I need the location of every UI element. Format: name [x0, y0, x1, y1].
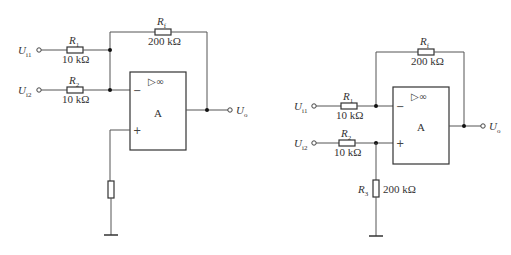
- left-output-label: Uo: [236, 104, 248, 119]
- right-ui1-terminal: [312, 104, 316, 108]
- left-opamp-minus: −: [133, 85, 141, 96]
- left-ui2-label: Ui2: [18, 84, 32, 99]
- left-rf-name: Rf: [156, 15, 167, 30]
- left-ui1-terminal: [37, 48, 41, 52]
- left-opamp-symbol: ▷∞: [148, 76, 164, 87]
- right-r3-name: R3: [357, 183, 369, 198]
- right-r1-value: 10 kΩ: [336, 109, 363, 121]
- left-r1-value: 10 kΩ: [62, 53, 89, 65]
- left-opamp-plus: +: [133, 125, 141, 136]
- left-opamp-label: A: [154, 107, 162, 119]
- right-ui2-label: Ui2: [294, 137, 308, 152]
- junction-node: [205, 108, 209, 112]
- junction-node: [374, 104, 378, 108]
- left-ground-resistor: [108, 181, 114, 198]
- right-opamp-minus: −: [396, 101, 404, 112]
- right-opamp-label: A: [417, 121, 425, 133]
- right-opamp-plus: +: [396, 138, 404, 149]
- left-ui1-label: Ui1: [18, 44, 32, 59]
- right-r2-value: 10 kΩ: [334, 146, 361, 158]
- right-ui2-terminal: [312, 141, 316, 145]
- left-r2-value: 10 kΩ: [62, 93, 89, 105]
- junction-node: [462, 124, 466, 128]
- left-ui2-terminal: [37, 88, 41, 92]
- left-output-terminal: [228, 108, 232, 112]
- right-opamp-symbol: ▷∞: [411, 91, 427, 102]
- junction-node: [108, 48, 112, 52]
- right-output-label: Uo: [489, 120, 501, 135]
- right-r3-resistor: [373, 180, 379, 197]
- right-r3-value: 200 kΩ: [383, 183, 416, 195]
- right-rf-value: 200 kΩ: [411, 55, 444, 67]
- left-circuit: Ui1 R1 10 kΩ Ui2 R2 10 kΩ Rf 200 kΩ ▷∞ A…: [18, 15, 248, 235]
- right-output-terminal: [481, 124, 485, 128]
- junction-node: [108, 88, 112, 92]
- left-rf-value: 200 kΩ: [148, 35, 181, 47]
- right-ui1-label: Ui1: [294, 100, 308, 115]
- right-circuit: Ui1 R1 10 kΩ Ui2 R2 10 kΩ Rf 200 kΩ ▷∞ A…: [294, 35, 501, 236]
- circuit-diagrams: Ui1 R1 10 kΩ Ui2 R2 10 kΩ Rf 200 kΩ ▷∞ A…: [0, 0, 511, 255]
- right-rf-name: Rf: [419, 35, 430, 50]
